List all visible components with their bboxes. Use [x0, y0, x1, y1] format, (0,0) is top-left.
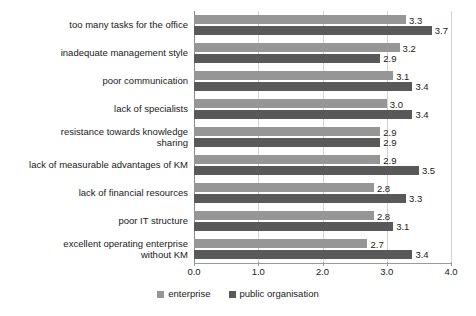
axis-tick-label: 4.0: [444, 266, 457, 277]
bar-enterprise-8: [194, 239, 367, 248]
bar-value-label: 3.2: [403, 44, 416, 53]
bar-value-label: 3.4: [415, 82, 428, 91]
bar-value-label: 2.9: [383, 156, 396, 165]
bar-value-label: 2.9: [383, 138, 396, 147]
category-label: inadequate management style: [61, 47, 188, 59]
bar-public-organisation-4: [194, 138, 380, 147]
category-label: too many tasks for the office: [69, 19, 188, 31]
bar-enterprise-6: [194, 183, 374, 192]
category-label: excellent operating enterprise without K…: [63, 238, 188, 261]
legend-label: enterprise: [168, 288, 210, 299]
bar-value-label: 2.7: [370, 240, 383, 249]
bar-enterprise-3: [194, 99, 387, 108]
category-label: lack of measurable advantages of KM: [29, 159, 188, 171]
bar-value-label: 2.9: [383, 128, 396, 137]
bar-enterprise-0: [194, 15, 406, 24]
bar-value-label: 2.8: [377, 212, 390, 221]
bar-value-label: 3.1: [396, 72, 409, 81]
bar-enterprise-1: [194, 43, 400, 52]
bar-enterprise-4: [194, 127, 380, 136]
axis-tick-label: 2.0: [316, 266, 329, 277]
category-label: resistance towards knowledge sharing: [61, 126, 188, 149]
bar-value-label: 3.3: [409, 16, 422, 25]
bar-value-label: 3.4: [415, 250, 428, 259]
legend-item-public-organisation[interactable]: public organisation: [229, 288, 319, 299]
bar-public-organisation-8: [194, 250, 412, 259]
bar-public-organisation-1: [194, 54, 380, 63]
category-label: lack of specialists: [114, 103, 188, 115]
gridline: [451, 11, 452, 263]
category-label: poor communication: [102, 75, 188, 87]
category-axis-labels: too many tasks for the officeinadequate …: [0, 11, 188, 263]
legend-label: public organisation: [240, 288, 319, 299]
bar-public-organisation-0: [194, 26, 432, 35]
bar-value-label: 3.4: [415, 110, 428, 119]
bar-value-label: 3.0: [390, 100, 403, 109]
bar-public-organisation-5: [194, 166, 419, 175]
bar-public-organisation-3: [194, 110, 412, 119]
bar-value-label: 3.1: [396, 222, 409, 231]
bar-value-label: 2.9: [383, 54, 396, 63]
chart-title-cropped: [0, 0, 476, 6]
bar-public-organisation-6: [194, 194, 406, 203]
chart-legend: enterprisepublic organisation: [0, 288, 476, 299]
value-axis-tick-labels: 0.01.02.03.04.0: [194, 266, 451, 280]
bar-public-organisation-7: [194, 222, 393, 231]
legend-item-enterprise[interactable]: enterprise: [157, 288, 210, 299]
category-label: poor IT structure: [118, 215, 188, 227]
bar-enterprise-5: [194, 155, 380, 164]
bar-value-label: 3.7: [435, 26, 448, 35]
category-label: lack of financial resources: [79, 187, 188, 199]
bar-chart: too many tasks for the officeinadequate …: [0, 0, 476, 316]
axis-tick-label: 1.0: [252, 266, 265, 277]
bar-enterprise-2: [194, 71, 393, 80]
legend-swatch-icon: [229, 291, 236, 298]
bar-public-organisation-2: [194, 82, 412, 91]
bar-value-label: 2.8: [377, 184, 390, 193]
bar-enterprise-7: [194, 211, 374, 220]
bar-value-label: 3.5: [422, 166, 435, 175]
axis-tick-label: 3.0: [380, 266, 393, 277]
bar-value-label: 3.3: [409, 194, 422, 203]
legend-swatch-icon: [157, 291, 164, 298]
plot-area: 3.33.73.22.93.13.43.03.42.92.92.93.52.83…: [194, 11, 451, 263]
axis-tick-label: 0.0: [187, 266, 200, 277]
